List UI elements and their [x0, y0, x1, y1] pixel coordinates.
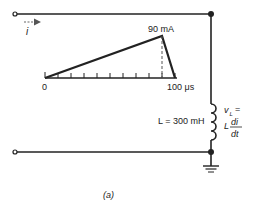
- axis-ticks: [45, 72, 175, 78]
- inductance-label: L = 300 mH: [158, 116, 204, 126]
- figure-caption: (a): [103, 190, 114, 200]
- x-end-label: 100 μs: [167, 82, 195, 92]
- circuit-diagram: i 90 mA 0 100 μs L = 300 mH v L = L di d…: [0, 0, 276, 203]
- current-label: i: [26, 26, 29, 37]
- bottom-terminal: [13, 150, 17, 154]
- peak-label: 90 mA: [148, 24, 174, 34]
- svg-text:=: =: [235, 104, 240, 114]
- svg-text:di: di: [231, 117, 239, 127]
- top-terminal: [13, 12, 17, 16]
- svg-text:L: L: [224, 121, 229, 131]
- current-arrow-icon: [24, 19, 41, 26]
- voltage-label: v L = L di dt: [224, 104, 242, 139]
- bottom-junction-dot: [208, 149, 214, 155]
- current-waveform: [45, 36, 175, 78]
- inductor-icon: [211, 104, 216, 140]
- svg-text:dt: dt: [231, 129, 239, 139]
- svg-text:v: v: [224, 105, 229, 115]
- ground-icon: [203, 166, 219, 172]
- x-start-label: 0: [42, 82, 47, 92]
